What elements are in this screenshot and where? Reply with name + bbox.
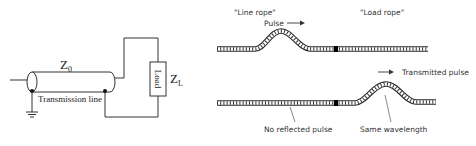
transmitted-pulse-label: Transmitted pulse <box>401 68 469 77</box>
rope-joint <box>334 100 338 106</box>
load-label: Load <box>153 70 163 89</box>
ground-icon <box>26 112 38 117</box>
diagram-canvas: Z0 Transmission line Load ZL "Line rope"… <box>0 0 476 146</box>
coax-cable-icon <box>32 72 115 92</box>
top-rope <box>217 31 428 52</box>
pointer-line <box>385 95 391 122</box>
transmission-line-label: Transmission line <box>38 94 102 104</box>
pulse-label: Pulse <box>264 19 284 28</box>
z0-label: Z0 <box>60 57 72 74</box>
pointer-line <box>290 107 295 122</box>
zl-label: ZL <box>170 71 183 88</box>
junction-dot <box>103 89 107 93</box>
load-rope-label: "Load rope" <box>360 8 404 17</box>
pulse-arrow-icon <box>287 21 305 26</box>
rope-joint <box>334 46 338 52</box>
transmitted-arrow-icon <box>378 70 394 75</box>
line-rope-label: "Line rope" <box>234 8 276 17</box>
no-reflected-pulse-label: No reflected pulse <box>264 125 333 134</box>
bottom-rope <box>217 84 436 106</box>
transmission-line-circuit <box>10 38 166 117</box>
same-wavelength-label: Same wavelength <box>360 125 428 134</box>
